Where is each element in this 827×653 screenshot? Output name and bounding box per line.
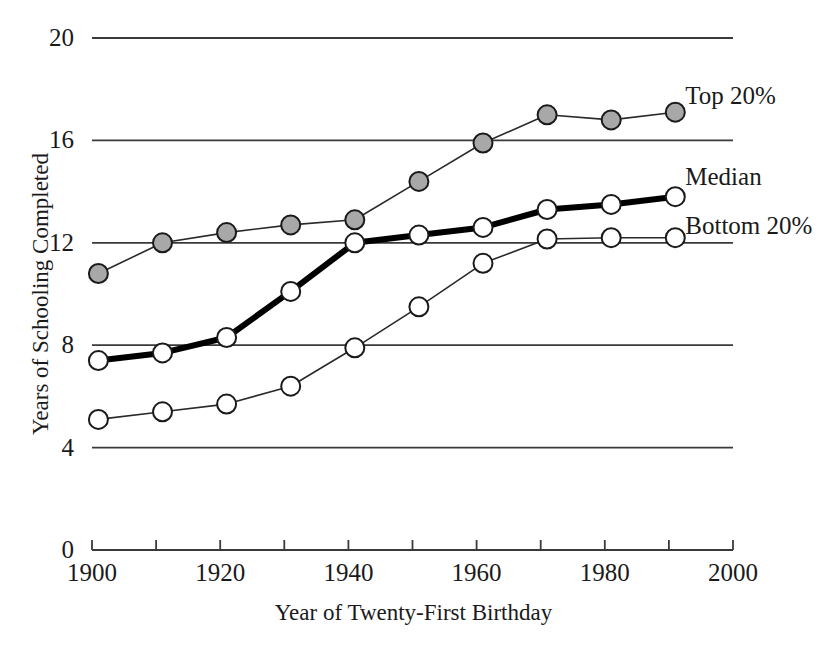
data-point [538, 230, 557, 249]
series-line-1 [98, 197, 675, 361]
y-axis-title: Years of Schooling Completed [28, 54, 54, 534]
series-label-top-20: Top 20% [685, 82, 776, 110]
chart-figure: 048121620 190019201940196019802000 Years… [0, 0, 827, 653]
data-point [153, 233, 172, 252]
data-point [89, 264, 108, 283]
series-group [89, 103, 685, 429]
data-point [89, 351, 108, 370]
data-point [538, 105, 557, 124]
data-point [345, 233, 364, 252]
x-tick-label-1960: 1960 [427, 560, 527, 585]
x-axis-title-text: Year of Twenty-First Birthday [275, 600, 552, 625]
x-tick-label-1940: 1940 [298, 560, 398, 585]
series-label-median: Median [685, 163, 761, 191]
data-point [217, 223, 236, 242]
data-point [666, 228, 685, 247]
x-axis-title: Year of Twenty-First Birthday [0, 600, 827, 626]
data-point [217, 328, 236, 347]
x-tick-label-1900: 1900 [42, 560, 142, 585]
x-tick-label-1980: 1980 [555, 560, 655, 585]
data-point [153, 402, 172, 421]
data-point [538, 200, 557, 219]
data-point [345, 210, 364, 229]
data-point [602, 110, 621, 129]
data-point [666, 103, 685, 122]
data-point [474, 218, 493, 237]
data-point [281, 215, 300, 234]
series-line-0 [98, 112, 675, 273]
data-point [281, 377, 300, 396]
y-tick-label-20: 20 [30, 25, 74, 50]
data-point [89, 410, 108, 429]
data-point [153, 343, 172, 362]
series-label-bottom-20: Bottom 20% [685, 212, 812, 240]
data-point [281, 282, 300, 301]
data-point [602, 228, 621, 247]
data-point [602, 195, 621, 214]
series-line-2 [98, 238, 675, 420]
data-point [345, 338, 364, 357]
axis-group [92, 540, 733, 550]
data-point [474, 134, 493, 153]
data-point [409, 226, 428, 245]
data-point [409, 172, 428, 191]
y-axis-title-text: Years of Schooling Completed [28, 54, 54, 534]
data-point [217, 395, 236, 414]
data-point [409, 297, 428, 316]
x-tick-label-2000: 2000 [683, 560, 783, 585]
x-tick-label-1920: 1920 [170, 560, 270, 585]
data-point [474, 254, 493, 273]
data-point [666, 187, 685, 206]
